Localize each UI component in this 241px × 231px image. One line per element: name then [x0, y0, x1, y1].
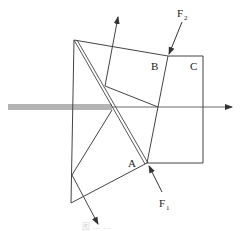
lower-reflected-ray: [72, 110, 112, 224]
beam-splitter-interface: [74, 40, 148, 164]
label-c: C: [190, 60, 197, 72]
prism-diagram: B C A F 2 F 1 图 … …: [0, 0, 241, 231]
label-f1: F: [159, 197, 165, 209]
prism-c: [147, 56, 203, 163]
force-f2-arrow: [169, 22, 182, 54]
label-f2: F: [177, 7, 183, 19]
label-f1-subscript: 1: [166, 204, 170, 212]
label-b: B: [151, 60, 158, 72]
label-f2-subscript: 2: [184, 14, 188, 22]
input-beam: [8, 105, 232, 109]
force-f1-arrow: [149, 166, 162, 192]
figure-caption: 图 … …: [82, 222, 111, 231]
label-a: A: [128, 157, 136, 169]
